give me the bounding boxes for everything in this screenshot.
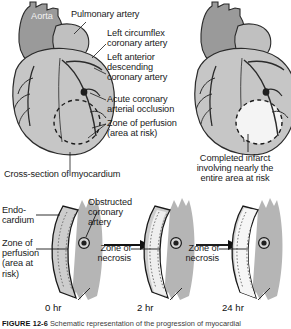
right-heart-illustration [190,2,291,155]
label-zone-of-necrosis-24hr: Zone of necrosis [177,243,219,263]
timepoint-2hr: 2 hr [137,303,154,313]
figure-caption: FIGURE 12-6 Schematic representation of … [2,320,289,329]
label-aorta: Aorta [31,11,53,21]
label-left-circumflex-artery: Left circumflex coronary artery [107,28,167,48]
timepoint-24hr: 24 hr [222,303,244,313]
leader-circumflex [92,44,106,58]
left-heart-illustration [8,2,115,155]
heading-cross-section-of-myocardium: Cross-section of myocardium [4,169,120,179]
label-left-anterior-descending-artery: Left anterior descending coronary artery [107,52,167,83]
label-zone-of-perfusion-heart: Zone of perfusion (area at risk) [107,118,177,138]
obstructed-artery-lumen-2 [261,240,266,245]
label-endocardium: Endo- cardium [2,205,34,225]
figure-container: Aorta Pulmonary artery Left circumflex c… [0,0,291,329]
label-zone-of-perfusion-section: Zone of perfusion (area at risk) [2,238,39,279]
obstructed-artery-lumen-0 [81,240,86,245]
label-pulmonary-artery: Pulmonary artery [71,9,139,19]
figure-caption-text: Schematic representation of the progress… [50,320,241,328]
label-obstructed-coronary-artery: Obstructed coronary artery [88,197,132,228]
acute-occlusion-marker [81,88,88,96]
cross-section-panel-24hr [219,198,283,300]
label-acute-coronary-occlusion: Acute coronary arterial occlusion [107,94,174,114]
right-ventricle-mass-right [195,48,291,154]
label-zone-of-necrosis-2hr: Zone of necrosis [89,243,131,263]
figure-caption-number: FIGURE 12-6 [2,320,48,328]
label-completed-infarct: Completed infarct involving nearly the e… [180,153,290,184]
timepoint-0hr: 0 hr [45,303,62,313]
occlusion-marker-right [263,88,270,96]
